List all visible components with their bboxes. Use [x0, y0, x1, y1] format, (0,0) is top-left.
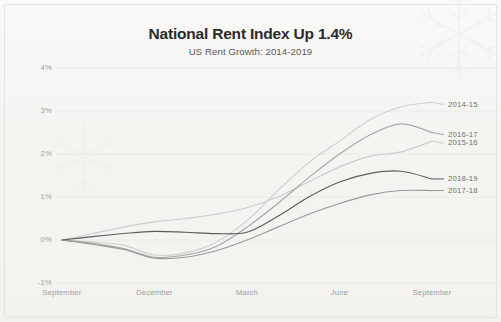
x-axis-tick-label: December [110, 288, 200, 297]
gridlines [56, 68, 497, 283]
snowflake-watermark-icon [46, 118, 122, 194]
chart-title: National Rent Index Up 1.4% [0, 24, 501, 43]
x-axis-tick-label: September [17, 288, 107, 297]
y-axis-tick-label: 0% [26, 235, 52, 244]
x-axis-tick-label: March [202, 288, 292, 297]
series-line-2017-18 [62, 190, 432, 258]
title-block: National Rent Index Up 1.4% US Rent Grow… [0, 24, 501, 59]
series-leader-2015-16 [432, 141, 444, 143]
x-axis-tick-label: June [295, 288, 385, 297]
y-axis-tick-label: 4% [26, 63, 52, 72]
series-line-2016-17 [62, 124, 432, 258]
y-axis-tick-label: 2% [26, 149, 52, 158]
chart-subtitle: US Rent Growth: 2014-2019 [0, 45, 501, 59]
series-line-2014-15 [62, 102, 432, 255]
series-line-2018-19 [62, 171, 432, 240]
series-leader-2014-15 [432, 102, 444, 104]
series-lines [62, 102, 444, 258]
series-label-2014-15: 2014-15 [448, 100, 478, 109]
y-axis-tick-label: -1% [26, 278, 52, 287]
series-leader-2016-17 [432, 133, 444, 135]
chart-card: National Rent Index Up 1.4% US Rent Grow… [0, 0, 501, 322]
series-label-2015-16: 2015-16 [448, 138, 478, 147]
x-axis-tick-label: September [387, 288, 477, 297]
series-label-2016-17: 2016-17 [448, 130, 478, 139]
series-label-2018-19: 2018-19 [448, 174, 478, 183]
y-axis-tick-label: 3% [26, 106, 52, 115]
series-label-2017-18: 2017-18 [448, 186, 478, 195]
y-axis-tick-label: 1% [26, 192, 52, 201]
series-line-2015-16 [62, 141, 432, 240]
